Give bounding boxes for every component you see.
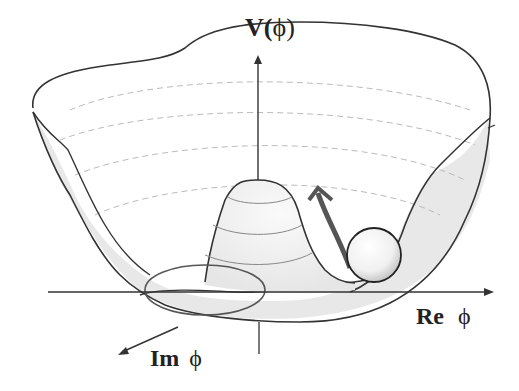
ball [347,228,401,282]
im-axis-arrowhead [118,347,129,355]
potential-graphic [0,0,519,391]
re-axis-label: Re ϕ [416,303,471,330]
im-axis-text: Im [150,345,179,371]
v-axis-text: V( [245,13,272,42]
im-axis-label: Im ϕ [150,345,202,372]
re-axis-phi: ϕ [458,303,471,329]
im-axis-phi: ϕ [189,345,202,371]
re-axis-arrowhead [484,288,494,296]
v-axis-label: V(ϕ) [245,13,295,43]
motion-arrow [318,193,350,268]
v-axis-close: ) [286,13,295,42]
v-axis-arrowhead [254,55,262,64]
re-axis-text: Re [416,303,444,329]
bowl-left-wall-line [33,112,165,305]
v-axis-phi: ϕ [272,13,286,42]
mexican-hat-potential-diagram: V(ϕ) Re ϕ Im ϕ [0,0,519,391]
